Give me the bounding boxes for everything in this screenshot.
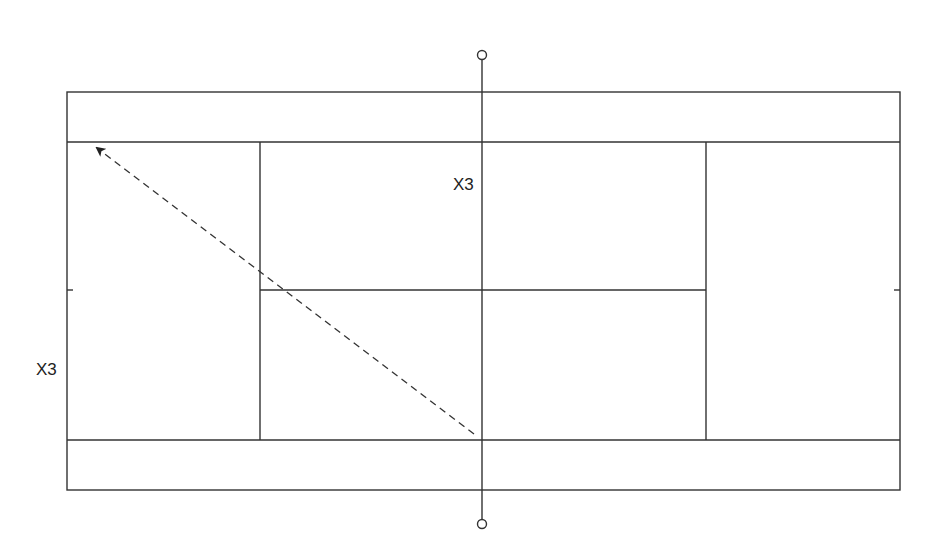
court-outer-boundary (67, 92, 900, 490)
court-lines (67, 92, 900, 490)
player-label-x3-left: X3 (36, 361, 57, 378)
player-label-x3-net: X3 (453, 176, 474, 193)
tennis-court-diagram (0, 0, 933, 559)
net-post-top-icon (478, 51, 487, 60)
net-post-bottom-icon (478, 520, 487, 529)
shot-direction-arrow (97, 148, 474, 434)
